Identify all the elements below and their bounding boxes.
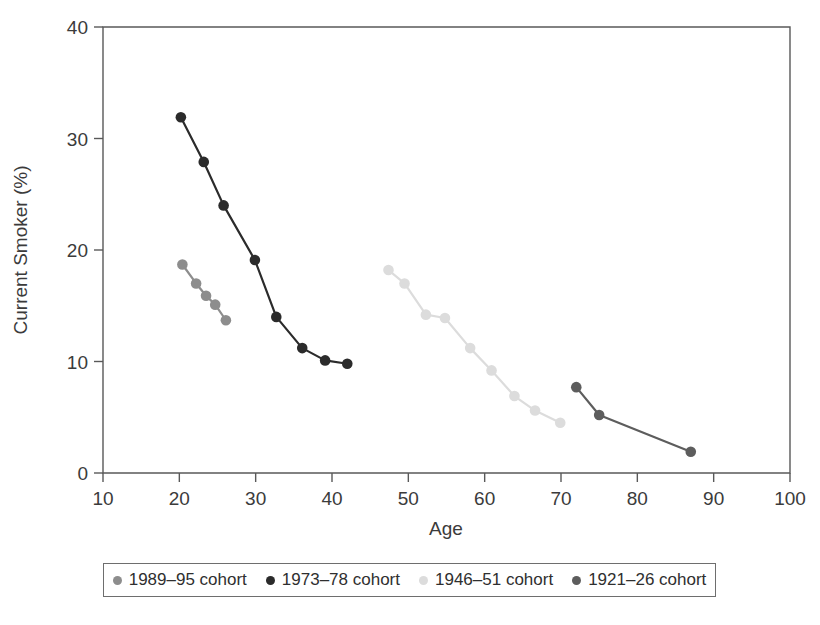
legend-swatch-icon	[113, 576, 122, 585]
data-point	[177, 259, 188, 270]
y-tick-label: 20	[67, 240, 88, 261]
data-point	[421, 309, 432, 320]
legend-item-3[interactable]: 1946–51 cohort	[419, 570, 553, 590]
data-point	[383, 265, 394, 276]
y-tick-label: 0	[77, 463, 88, 484]
series-polyline	[181, 117, 347, 363]
x-tick-label: 20	[169, 488, 190, 509]
legend-item-2[interactable]: 1973–78 cohort	[266, 570, 400, 590]
data-point	[571, 382, 582, 393]
data-point	[221, 315, 232, 326]
data-point	[594, 410, 605, 421]
legend-swatch-icon	[266, 576, 275, 585]
y-tick-label: 30	[67, 129, 88, 150]
y-tick-label: 10	[67, 352, 88, 373]
data-point	[210, 299, 221, 310]
x-tick-label: 60	[474, 488, 495, 509]
data-point	[271, 312, 282, 323]
data-point	[440, 313, 451, 324]
data-point	[555, 418, 566, 429]
x-axis-title: Age	[429, 518, 463, 539]
x-tick-label: 100	[774, 488, 806, 509]
legend-item-1[interactable]: 1989–95 cohort	[113, 570, 247, 590]
series-1	[177, 259, 231, 325]
data-point	[250, 255, 261, 266]
legend-label: 1946–51 cohort	[435, 570, 553, 590]
x-tick-label: 90	[703, 488, 724, 509]
plot-frame	[103, 27, 790, 473]
data-point	[509, 391, 520, 402]
x-tick-label: 10	[92, 488, 113, 509]
data-point	[486, 365, 497, 376]
chart-canvas: 010203040102030405060708090100 Current S…	[0, 0, 820, 625]
x-tick-label: 80	[627, 488, 648, 509]
data-series	[176, 112, 697, 457]
chart-legend: 1989–95 cohort1973–78 cohort1946–51 coho…	[103, 563, 716, 597]
y-axis-title: Current Smoker (%)	[10, 166, 31, 335]
data-point	[342, 358, 353, 369]
x-tick-label: 50	[398, 488, 419, 509]
data-point	[320, 355, 331, 366]
data-point	[201, 290, 212, 301]
legend-item-4[interactable]: 1921–26 cohort	[572, 570, 706, 590]
legend-swatch-icon	[419, 576, 428, 585]
data-point	[465, 343, 476, 354]
series-4	[571, 382, 696, 457]
data-point	[218, 200, 229, 211]
legend-label: 1921–26 cohort	[588, 570, 706, 590]
data-point	[297, 343, 308, 354]
x-tick-label: 70	[550, 488, 571, 509]
legend-label: 1989–95 cohort	[129, 570, 247, 590]
smoking-prevalence-chart: 010203040102030405060708090100 Current S…	[0, 0, 820, 625]
series-2	[176, 112, 353, 369]
data-point	[176, 112, 187, 123]
x-tick-label: 40	[321, 488, 342, 509]
series-polyline	[576, 387, 691, 452]
data-point	[198, 157, 209, 168]
data-point	[191, 278, 202, 289]
legend-label: 1973–78 cohort	[282, 570, 400, 590]
y-tick-label: 40	[67, 17, 88, 38]
series-3	[383, 265, 565, 428]
legend-swatch-icon	[572, 576, 581, 585]
x-tick-label: 30	[245, 488, 266, 509]
data-point	[399, 278, 410, 289]
data-point	[530, 405, 541, 416]
data-point	[685, 447, 696, 458]
